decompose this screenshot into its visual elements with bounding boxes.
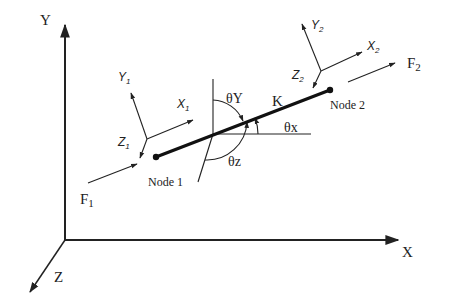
theta-z-label: θz — [228, 154, 241, 169]
theta-x-label: θx — [284, 120, 298, 135]
local-z1-axis — [140, 139, 147, 158]
local-y1-label: Y1 — [118, 70, 130, 86]
beam-element-diagram: X Y Z Node 1 Node 2 K θx θY θz X1Y1Z1X2Y… — [0, 0, 464, 307]
global-axes: X Y Z — [30, 12, 413, 292]
local-x1-axis — [147, 120, 193, 139]
local-z2-axis — [313, 71, 321, 88]
node-1-dot — [153, 154, 159, 160]
force-f2-arrow — [348, 63, 395, 82]
force-f1-label: F1 — [80, 191, 94, 209]
force-f1-arrow — [88, 164, 137, 183]
local-z1-label: Z1 — [117, 135, 130, 151]
local-x2-label: X2 — [366, 39, 380, 55]
global-y-label: Y — [40, 12, 51, 28]
local-z2-label: Z2 — [291, 68, 304, 84]
node-2-dot — [327, 87, 333, 93]
angle-labels: θx θY θz — [226, 91, 298, 169]
local-x1-label: X1 — [176, 97, 189, 113]
local-x2-axis — [321, 52, 362, 71]
local-frames: X1Y1Z1X2Y2Z2 — [117, 18, 380, 158]
node-1-label: Node 1 — [148, 175, 183, 189]
local-y2-label: Y2 — [311, 18, 324, 34]
local-y1-axis — [131, 93, 147, 139]
stiffness-label: K — [272, 93, 283, 109]
node-2-label: Node 2 — [330, 98, 365, 112]
node1-frame: X1Y1Z1 — [117, 70, 193, 158]
node2-frame: X2Y2Z2 — [291, 18, 380, 88]
theta-y-label: θY — [226, 91, 243, 106]
force-f2-label: F2 — [407, 55, 421, 73]
global-z-label: Z — [54, 269, 63, 285]
forces: F1F2 — [80, 55, 421, 209]
global-x-label: X — [402, 244, 413, 260]
